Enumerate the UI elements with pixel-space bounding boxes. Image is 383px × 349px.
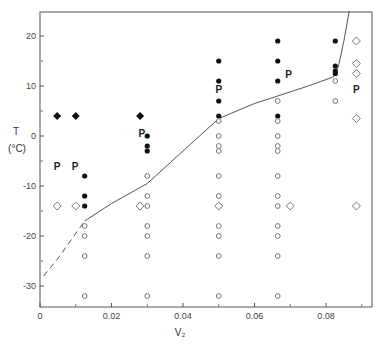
open-circle-marker xyxy=(275,194,280,199)
plot-frame xyxy=(40,12,372,307)
y-tick-label: 10 xyxy=(26,81,36,91)
open-circle-marker xyxy=(145,234,150,239)
x-tick-label: 0.04 xyxy=(174,311,192,321)
open-circle-marker xyxy=(82,224,87,229)
x-axis: 00.020.040.060.08 xyxy=(37,303,361,321)
filled-circle-marker xyxy=(82,203,87,208)
open-circle-marker xyxy=(216,254,221,259)
filled-circle-marker xyxy=(333,38,338,43)
open-circle-marker xyxy=(216,294,221,299)
filled-circle-marker xyxy=(275,113,280,118)
open-circle-marker xyxy=(145,254,150,259)
filled-diamond-marker xyxy=(72,112,80,120)
p-annotation: P xyxy=(139,128,146,139)
open-diamond-marker xyxy=(352,115,360,123)
filled-circle-marker xyxy=(145,133,150,138)
open-diamond-marker xyxy=(72,202,80,210)
open-circle-marker xyxy=(275,99,280,104)
open-circle-marker xyxy=(275,204,280,209)
open-circle-marker xyxy=(275,254,280,259)
x-tick-label: 0.02 xyxy=(103,311,121,321)
y-tick-label: -10 xyxy=(23,181,36,191)
p-annotation: P xyxy=(215,84,222,95)
filled-circle-marker xyxy=(275,38,280,43)
filled-circle-marker xyxy=(216,113,221,118)
open-circle-marker xyxy=(333,79,338,84)
filled-circle-marker xyxy=(333,71,338,76)
open-circle-marker xyxy=(145,174,150,179)
p-annotation: P xyxy=(353,84,360,95)
y-axis-unit: (°C) xyxy=(8,143,26,154)
open-circle-marker xyxy=(145,294,150,299)
filled-circle-marker xyxy=(145,148,150,153)
open-diamond-marker xyxy=(352,37,360,45)
open-diamond-marker xyxy=(352,202,360,210)
open-circle-marker xyxy=(216,119,221,124)
open-circle-marker xyxy=(216,234,221,239)
open-diamond-marker xyxy=(215,202,223,210)
y-axis: 20100-10-20-30 xyxy=(23,31,44,291)
data-markers xyxy=(53,37,360,298)
p-annotation: P xyxy=(54,161,61,172)
open-diamond-marker xyxy=(286,202,294,210)
filled-circle-marker xyxy=(333,63,338,68)
open-circle-marker xyxy=(216,224,221,229)
open-diamond-marker xyxy=(352,70,360,78)
open-circle-marker xyxy=(145,204,150,209)
y-tick-label: 20 xyxy=(26,31,36,41)
open-circle-marker xyxy=(145,224,150,229)
x-tick-label: 0 xyxy=(37,311,42,321)
open-circle-marker xyxy=(275,144,280,149)
open-circle-marker xyxy=(333,99,338,104)
open-circle-marker xyxy=(275,234,280,239)
x-axis-title: V₂ xyxy=(175,327,186,338)
open-circle-marker xyxy=(275,294,280,299)
filled-circle-marker xyxy=(275,58,280,63)
curve-dashed-segment xyxy=(44,221,85,276)
open-circle-marker xyxy=(216,149,221,154)
open-circle-marker xyxy=(275,174,280,179)
open-diamond-marker xyxy=(53,202,61,210)
open-circle-marker xyxy=(275,224,280,229)
y-tick-label: 0 xyxy=(31,131,36,141)
phase-diagram-chart: 00.020.040.060.08 20100-10-20-30 PPPPPP … xyxy=(0,0,383,349)
plot-border xyxy=(40,12,372,307)
p-annotation: P xyxy=(72,161,79,172)
x-tick-label: 0.08 xyxy=(317,311,335,321)
filled-diamond-marker xyxy=(53,112,61,120)
open-circle-marker xyxy=(216,144,221,149)
filled-circle-marker xyxy=(275,78,280,83)
open-diamond-marker xyxy=(136,202,144,210)
open-circle-marker xyxy=(275,149,280,154)
phase-boundary-curve xyxy=(44,11,350,276)
y-tick-label: -20 xyxy=(23,231,36,241)
open-circle-marker xyxy=(82,294,87,299)
open-circle-marker xyxy=(275,134,280,139)
filled-circle-marker xyxy=(216,58,221,63)
open-circle-marker xyxy=(216,134,221,139)
filled-circle-marker xyxy=(216,98,221,103)
x-tick-label: 0.06 xyxy=(246,311,264,321)
filled-circle-marker xyxy=(145,143,150,148)
p-annotation: P xyxy=(285,69,292,80)
filled-circle-marker xyxy=(82,193,87,198)
y-axis-title: T xyxy=(13,126,19,137)
open-circle-marker xyxy=(145,194,150,199)
y-tick-label: -30 xyxy=(23,281,36,291)
open-circle-marker xyxy=(216,174,221,179)
open-circle-marker xyxy=(275,119,280,124)
filled-diamond-marker xyxy=(136,112,144,120)
open-diamond-marker xyxy=(352,60,360,68)
open-circle-marker xyxy=(216,194,221,199)
filled-circle-marker xyxy=(82,173,87,178)
open-circle-marker xyxy=(82,254,87,259)
open-circle-marker xyxy=(82,234,87,239)
